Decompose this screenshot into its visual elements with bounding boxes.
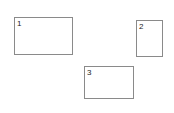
box-3: 3 <box>84 66 134 99</box>
box-3-label: 3 <box>87 68 91 77</box>
box-2: 2 <box>136 20 163 57</box>
box-1-label: 1 <box>17 19 21 28</box>
box-1: 1 <box>14 17 73 55</box>
box-2-label: 2 <box>139 22 143 31</box>
